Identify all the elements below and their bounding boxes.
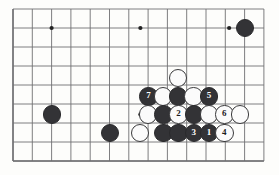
white-stone-4: 4 bbox=[215, 124, 233, 142]
star-point bbox=[138, 26, 142, 30]
star-point bbox=[50, 26, 54, 30]
star-point bbox=[227, 26, 231, 30]
stone-number-label: 4 bbox=[222, 128, 227, 137]
white-stone-row5-g bbox=[231, 105, 249, 123]
stone-number-label: 3 bbox=[192, 128, 197, 137]
go-board-diagram: 7526314 bbox=[0, 0, 279, 175]
stone-number-label: 6 bbox=[222, 109, 227, 118]
black-stone-left bbox=[43, 105, 61, 123]
stone-number-label: 5 bbox=[207, 91, 212, 100]
black-stone-5: 5 bbox=[200, 87, 218, 105]
stone-number-label: 1 bbox=[207, 128, 212, 137]
stone-number-label: 2 bbox=[176, 109, 181, 118]
white-stone-lower-left bbox=[131, 124, 149, 142]
stone-number-label: 7 bbox=[146, 91, 151, 100]
